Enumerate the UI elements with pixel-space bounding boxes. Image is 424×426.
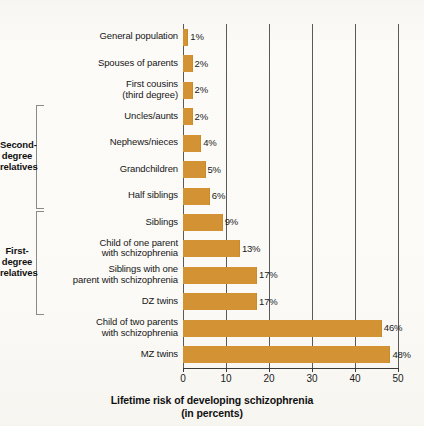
x-tick-label-10: 10 <box>220 373 231 384</box>
category-label: Nephews/nieces <box>110 137 178 148</box>
bar-value-label: 17% <box>259 269 277 280</box>
bar[interactable] <box>183 108 193 125</box>
x-tick-10 <box>226 368 227 372</box>
bar[interactable] <box>183 161 206 178</box>
schizophrenia-risk-bar-chart: 01020304050 General population1%Spouses … <box>0 0 424 426</box>
gridline-30 <box>312 24 313 368</box>
bar-value-label: 5% <box>208 164 221 175</box>
x-tick-30 <box>312 368 313 372</box>
group-label: First- degree relatives <box>0 245 34 278</box>
x-tick-label-20: 20 <box>263 373 274 384</box>
category-label: General population <box>100 31 178 42</box>
bar-value-label: 4% <box>203 137 216 148</box>
x-tick-label-0: 0 <box>180 373 186 384</box>
bar-value-label: 17% <box>259 296 277 307</box>
x-tick-0 <box>183 368 184 372</box>
bar-value-label: 48% <box>392 349 410 360</box>
gridline-10 <box>226 24 227 368</box>
category-label: MZ twins <box>141 349 178 360</box>
category-label: First cousins (third degree) <box>122 79 178 100</box>
group-bracket <box>36 211 44 315</box>
bar[interactable] <box>183 29 188 46</box>
bar[interactable] <box>183 293 257 310</box>
category-label: Siblings with one parent with schizophre… <box>73 264 178 285</box>
gridline-20 <box>269 24 270 368</box>
category-label: Spouses of parents <box>98 58 178 69</box>
bar-value-label: 46% <box>384 322 402 333</box>
category-label: Siblings <box>146 217 178 228</box>
x-tick-label-50: 50 <box>392 373 403 384</box>
category-label: Uncles/aunts <box>124 111 178 122</box>
bar[interactable] <box>183 188 210 205</box>
bar[interactable] <box>183 214 223 231</box>
x-tick-label-40: 40 <box>349 373 360 384</box>
bar[interactable] <box>183 135 201 152</box>
bar-value-label: 2% <box>195 84 208 95</box>
x-tick-50 <box>398 368 399 372</box>
category-label: DZ twins <box>142 296 178 307</box>
x-tick-20 <box>269 368 270 372</box>
x-tick-40 <box>355 368 356 372</box>
category-label: Half siblings <box>128 190 178 201</box>
group-bracket <box>36 105 44 209</box>
gridline-40 <box>355 24 356 368</box>
x-tick-label-30: 30 <box>306 373 317 384</box>
bar-value-label: 9% <box>225 216 238 227</box>
group-label: Second- degree relatives <box>0 139 34 172</box>
bar[interactable] <box>183 55 193 72</box>
bar[interactable] <box>183 240 240 257</box>
bar-value-label: 6% <box>212 190 225 201</box>
bar-value-label: 2% <box>195 58 208 69</box>
bar[interactable] <box>183 320 382 337</box>
gridline-50 <box>398 24 399 368</box>
category-label: Child of one parent with schizophrenia <box>100 238 178 259</box>
x-axis-title: Lifetime risk of developing schizophreni… <box>0 394 424 419</box>
category-label: Grandchildren <box>120 164 178 175</box>
category-label: Child of two parents with schizophrenia <box>96 317 178 338</box>
bar-value-label: 13% <box>242 243 260 254</box>
axis-baseline <box>183 368 399 369</box>
bar[interactable] <box>183 82 193 99</box>
bar[interactable] <box>183 267 257 284</box>
bar-value-label: 2% <box>195 111 208 122</box>
bar[interactable] <box>183 346 390 363</box>
bar-value-label: 1% <box>190 31 203 42</box>
